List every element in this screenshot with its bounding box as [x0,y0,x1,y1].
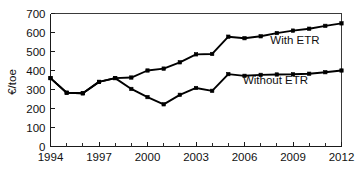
data-point-marker [178,61,181,64]
series-annotations: With ETRWithout ETR [243,34,320,86]
data-point-marker [243,37,246,40]
x-tick-label: 2009 [280,151,306,163]
data-point-marker [162,67,165,70]
chart-container: 0100200300400500600700 19941997200020032… [0,0,363,173]
x-tick-label: 1997 [86,151,112,163]
y-tick-label: 500 [26,46,45,58]
y-tick-label: 300 [26,84,45,96]
data-point-marker [227,72,230,75]
data-point-marker [210,89,213,92]
data-point-marker [65,91,68,94]
y-tick-label: 100 [26,122,45,134]
y-tick-label: 600 [26,27,45,39]
data-point-marker [49,76,52,79]
x-tick-label: 2006 [232,151,258,163]
data-point-marker [291,29,294,32]
data-point-marker [194,86,197,89]
y-tick-label: 200 [26,103,45,115]
data-point-marker [178,93,181,96]
y-axis-tick-labels: 0100200300400500600700 [26,8,45,153]
data-point-marker [81,92,84,95]
data-point-marker [97,80,100,83]
data-point-marker [324,71,327,74]
x-tick-label: 2000 [135,151,161,163]
x-axis-tick-labels: 1994199720002003200620092012 [38,151,355,163]
x-tick-label: 2012 [329,151,355,163]
y-axis-title: €/toe [6,69,18,95]
data-point-marker [146,95,149,98]
data-point-marker [162,103,165,106]
data-point-marker [340,22,343,25]
data-point-marker [113,76,116,79]
data-point-marker [340,69,343,72]
data-point-marker [210,52,213,55]
data-point-marker [227,35,230,38]
line-chart: 0100200300400500600700 19941997200020032… [0,0,363,173]
data-point-marker [307,27,310,30]
x-tick-label: 2003 [183,151,209,163]
data-point-marker [324,24,327,27]
data-point-marker [130,87,133,90]
y-axis-title-group: €/toe [6,69,18,95]
series-label-with-etr: With ETR [270,34,319,46]
y-tick-label: 400 [26,65,45,77]
data-point-marker [146,69,149,72]
x-tick-label: 1994 [38,151,64,163]
y-tick-label: 700 [26,8,45,20]
series-label-without-etr: Without ETR [243,74,308,86]
data-point-marker [194,53,197,56]
data-point-marker [259,35,262,38]
data-point-marker [130,76,133,79]
